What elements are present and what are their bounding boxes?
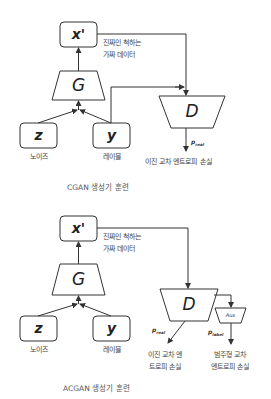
acgan-generator-label: G <box>52 269 105 289</box>
acgan-noise-caption: 노이즈 <box>20 345 57 355</box>
cgan-label-symbol: y <box>93 127 130 143</box>
acgan-noise-symbol: z <box>20 320 57 336</box>
acgan-label-symbol: y <box>93 320 130 336</box>
cgan-caption: CGAN 생성기 훈련 <box>67 181 129 192</box>
cgan-x-prime-label: x' <box>60 26 97 42</box>
cgan-noise-symbol: z <box>20 127 57 143</box>
acgan-caption: ACGAN 생성기 훈련 <box>63 382 130 393</box>
acgan-bce-loss-line1: 이진 교차 엔 <box>135 350 195 360</box>
acgan-x-prime-label: x' <box>60 220 97 236</box>
acgan-cce-loss-line2: 엔트로피 손실 <box>200 362 260 372</box>
p-subscript: real <box>195 142 204 147</box>
cgan-generator-label: G <box>52 75 105 95</box>
cgan-fake-data-label-line1: 진짜인 척하는 <box>103 38 141 48</box>
cgan-p-real: preal <box>191 138 204 145</box>
acgan-aux-label: Aux <box>215 312 246 318</box>
acgan-p-label: plabel <box>208 328 223 335</box>
acgan-fake-data-label-line2: 가짜 데이터 <box>103 244 135 254</box>
acgan-bce-loss-line2: 트로피 손실 <box>135 362 195 372</box>
acgan-fake-data-label-line1: 진짜인 척하는 <box>103 232 141 242</box>
cgan-fake-data-label-line2: 가짜 데이터 <box>103 50 135 60</box>
cgan-discriminator-label: D <box>159 101 225 121</box>
cgan-label-caption: 레이블 <box>93 152 130 162</box>
p-subscript: real <box>156 330 165 335</box>
acgan-p-real: preal <box>152 326 165 333</box>
cgan-loss-label: 이진 교차 엔트로피 손실 <box>145 157 212 167</box>
acgan-discriminator-label: D <box>160 294 218 314</box>
p-subscript: label <box>212 332 223 337</box>
acgan-cce-loss-line1: 범주형 교차 <box>200 350 260 360</box>
acgan-label-caption: 레이블 <box>93 345 130 355</box>
cgan-noise-caption: 노이즈 <box>20 152 57 162</box>
diagram-canvas <box>0 0 271 399</box>
